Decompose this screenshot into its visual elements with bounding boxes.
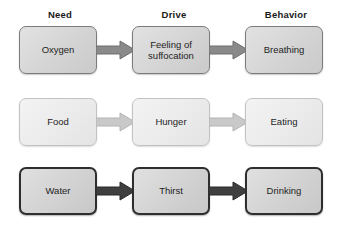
arrow-shape bbox=[96, 113, 135, 131]
arrow-need-to-drive-row3 bbox=[96, 181, 136, 201]
node-label: Eating bbox=[271, 116, 298, 128]
arrow-shape bbox=[209, 41, 248, 59]
node-label: Hunger bbox=[155, 116, 186, 128]
node-label: Water bbox=[46, 185, 71, 197]
diagram-row-food: Food Hunger Eating bbox=[0, 98, 340, 150]
node-behavior-eating: Eating bbox=[245, 98, 323, 146]
column-header-behavior: Behavior bbox=[238, 9, 334, 21]
node-label: Feeling of suffocation bbox=[148, 39, 194, 62]
arrow-icon bbox=[96, 181, 136, 201]
arrow-shape bbox=[209, 113, 248, 131]
arrow-icon bbox=[96, 112, 136, 132]
arrow-need-to-drive-row2 bbox=[96, 112, 136, 132]
node-behavior-breathing: Breathing bbox=[245, 26, 323, 74]
diagram-row-oxygen: Oxygen Feeling of suffocation Breathing bbox=[0, 26, 340, 78]
diagram-row-water: Water Thirst Drinking bbox=[0, 167, 340, 219]
arrow-shape bbox=[96, 41, 135, 59]
arrow-icon bbox=[209, 112, 249, 132]
arrow-drive-to-behavior-row3 bbox=[209, 181, 249, 201]
node-label: Oxygen bbox=[42, 44, 75, 56]
arrow-icon bbox=[96, 40, 136, 60]
column-header-need: Need bbox=[12, 9, 108, 21]
arrow-drive-to-behavior-row1 bbox=[209, 40, 249, 60]
node-need-food: Food bbox=[19, 98, 97, 146]
node-label: Thirst bbox=[159, 185, 183, 197]
node-need-water: Water bbox=[19, 167, 97, 215]
node-drive-suffocation: Feeling of suffocation bbox=[132, 26, 210, 74]
arrow-drive-to-behavior-row2 bbox=[209, 112, 249, 132]
arrow-icon bbox=[209, 40, 249, 60]
node-behavior-drinking: Drinking bbox=[245, 167, 323, 215]
arrow-icon bbox=[209, 181, 249, 201]
arrow-shape bbox=[96, 182, 135, 200]
node-label: Breathing bbox=[264, 44, 305, 56]
node-label: Drinking bbox=[267, 185, 302, 197]
arrow-need-to-drive-row1 bbox=[96, 40, 136, 60]
node-need-oxygen: Oxygen bbox=[19, 26, 97, 74]
node-label: Food bbox=[47, 116, 69, 128]
node-drive-hunger: Hunger bbox=[132, 98, 210, 146]
need-drive-behavior-diagram: Need Drive Behavior Oxygen Feeling of su… bbox=[0, 0, 340, 228]
node-drive-thirst: Thirst bbox=[132, 167, 210, 215]
arrow-shape bbox=[209, 182, 248, 200]
column-header-drive: Drive bbox=[126, 9, 222, 21]
